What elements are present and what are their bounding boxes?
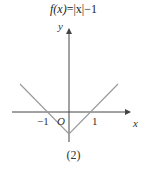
- origin-label: O: [57, 115, 65, 127]
- tick-label-neg-one: −1: [37, 115, 49, 127]
- figure-caption: (2): [0, 148, 147, 163]
- tick-label-one: 1: [92, 115, 98, 127]
- y-axis-label: y: [57, 20, 63, 32]
- x-axis-label: x: [132, 117, 138, 129]
